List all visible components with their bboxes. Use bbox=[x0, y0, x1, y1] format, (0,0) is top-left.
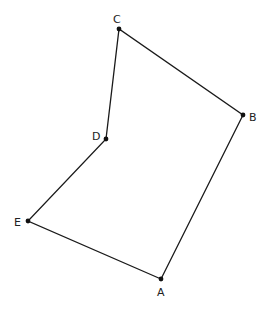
vertex-label-e: E bbox=[14, 216, 21, 229]
vertex-label-d: D bbox=[92, 130, 100, 143]
vertex-point-c bbox=[117, 27, 122, 32]
vertex-label-c: C bbox=[113, 13, 121, 26]
pentagon-diagram: ABCDE bbox=[0, 0, 265, 309]
vertex-label-b: B bbox=[249, 111, 257, 124]
pentagon-outline bbox=[28, 29, 243, 279]
vertex-point-a bbox=[159, 277, 164, 282]
vertex-point-e bbox=[26, 219, 31, 224]
vertex-label-a: A bbox=[157, 286, 165, 299]
vertex-point-b bbox=[241, 113, 246, 118]
vertex-point-d bbox=[104, 137, 109, 142]
